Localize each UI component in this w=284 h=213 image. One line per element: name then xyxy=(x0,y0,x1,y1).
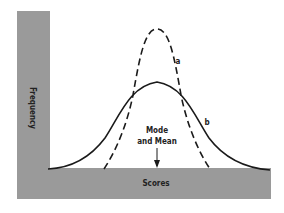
annotation-and-mean: and Mean xyxy=(137,137,177,146)
x-axis-label: Scores xyxy=(142,179,169,188)
y-axis-label: Frequency xyxy=(28,87,37,129)
curve-a-label: a xyxy=(176,57,181,66)
curve-b-label: b xyxy=(204,118,209,127)
distribution-figure: Mode and Mean a b Scores Frequency xyxy=(0,0,284,213)
arrow-head-icon xyxy=(154,160,160,168)
annotation-mode: Mode xyxy=(146,126,168,135)
